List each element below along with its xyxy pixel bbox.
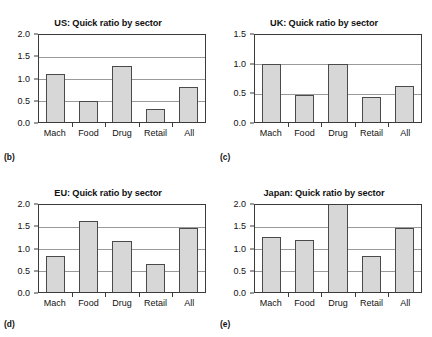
bar-slot xyxy=(39,205,72,292)
bar-slot xyxy=(72,35,105,122)
x-axis-category-label: Retail xyxy=(139,128,173,138)
x-axis-ticks-japan xyxy=(254,293,422,297)
bar-drug xyxy=(112,241,131,292)
chart-panel-us: US: Quick ratio by sector 0.00.51.01.52.… xyxy=(0,0,216,170)
x-axis-category-label: All xyxy=(172,128,206,138)
bar-drug xyxy=(328,204,347,292)
x-axis-category-label: Drug xyxy=(105,128,139,138)
y-axis-tick-label: 1.0 xyxy=(17,74,30,83)
bar-retail xyxy=(146,109,165,122)
plot-area-us xyxy=(38,34,206,123)
bar-mach xyxy=(46,74,65,123)
y-axis-tick-label: 0.0 xyxy=(233,119,246,128)
x-axis-tick-mark xyxy=(105,293,106,297)
bar-all xyxy=(395,228,414,292)
x-axis-category-label: All xyxy=(172,298,206,308)
y-axis-tick-label: 2.0 xyxy=(17,30,30,39)
y-axis-tick-label: 1.5 xyxy=(17,222,30,231)
x-axis-ticks-eu xyxy=(38,293,206,297)
bar-retail xyxy=(146,264,165,292)
bar-food xyxy=(79,101,98,122)
x-axis-category-label: Mach xyxy=(38,298,72,308)
x-axis-tick-mark xyxy=(288,123,289,127)
bar-mach xyxy=(262,237,281,292)
x-axis-tick-mark xyxy=(388,293,389,297)
y-axis-tick-label: 1.5 xyxy=(233,222,246,231)
x-axis-category-label: Retail xyxy=(355,128,389,138)
bar-retail xyxy=(362,97,381,123)
bar-slot xyxy=(139,35,172,122)
bar-mach xyxy=(262,64,281,122)
bars-uk xyxy=(255,35,421,122)
bar-all xyxy=(179,228,198,292)
y-axis-tick-label: 0.0 xyxy=(17,289,30,298)
x-axis-category-label: Food xyxy=(72,128,106,138)
panel-title: Japan: Quick ratio by sector xyxy=(216,188,432,198)
bar-all xyxy=(179,87,198,122)
x-axis-labels-eu: MachFoodDrugRetailAll xyxy=(38,298,206,308)
x-axis-category-label: Drug xyxy=(321,128,355,138)
y-axis-tick-label: 1.5 xyxy=(17,52,30,61)
y-axis-uk: 0.00.51.01.5 xyxy=(216,34,250,123)
y-axis-japan: 0.00.51.01.52.0 xyxy=(216,204,250,293)
y-axis-tick-label: 1.0 xyxy=(17,244,30,253)
bar-slot xyxy=(105,205,138,292)
bar-slot xyxy=(255,205,288,292)
panel-label: (b) xyxy=(4,152,15,162)
x-axis-category-label: Food xyxy=(72,298,106,308)
bar-all xyxy=(395,86,414,122)
plot-area-uk xyxy=(254,34,422,123)
chart-panel-japan: Japan: Quick ratio by sector 0.00.51.01.… xyxy=(216,170,432,337)
y-axis-tick-label: 1.5 xyxy=(233,30,246,39)
panel-title: EU: Quick ratio by sector xyxy=(0,188,216,198)
x-axis-category-label: Mach xyxy=(254,298,288,308)
x-axis-tick-mark xyxy=(355,293,356,297)
x-axis-labels-japan: MachFoodDrugRetailAll xyxy=(254,298,422,308)
bar-slot xyxy=(355,205,388,292)
chart-panel-eu: EU: Quick ratio by sector 0.00.51.01.52.… xyxy=(0,170,216,337)
x-axis-ticks-us xyxy=(38,123,206,127)
x-axis-tick-mark xyxy=(139,293,140,297)
bar-slot xyxy=(139,205,172,292)
x-axis-labels-uk: MachFoodDrugRetailAll xyxy=(254,128,422,138)
bar-slot xyxy=(39,35,72,122)
panel-label: (d) xyxy=(4,319,15,329)
bar-drug xyxy=(328,64,347,122)
y-axis-tick-label: 0.5 xyxy=(17,96,30,105)
y-axis-tick-label: 2.0 xyxy=(233,200,246,209)
chart-panel-uk: UK: Quick ratio by sector 0.00.51.01.5 M… xyxy=(216,0,432,170)
x-axis-category-label: All xyxy=(388,128,422,138)
y-axis-tick-label: 2.0 xyxy=(17,200,30,209)
y-axis-tick-label: 1.0 xyxy=(233,59,246,68)
x-axis-tick-mark xyxy=(172,293,173,297)
panel-title: UK: Quick ratio by sector xyxy=(216,18,432,28)
plot-frame xyxy=(254,204,422,293)
panel-title: US: Quick ratio by sector xyxy=(0,18,216,28)
x-axis-tick-mark xyxy=(388,123,389,127)
x-axis-category-label: Retail xyxy=(355,298,389,308)
x-axis-tick-mark xyxy=(139,123,140,127)
bar-slot xyxy=(288,205,321,292)
bar-drug xyxy=(112,66,131,123)
bar-slot xyxy=(255,35,288,122)
bar-slot xyxy=(105,35,138,122)
bar-mach xyxy=(46,256,65,292)
bar-slot xyxy=(321,205,354,292)
x-axis-category-label: Drug xyxy=(105,298,139,308)
x-axis-labels-us: MachFoodDrugRetailAll xyxy=(38,128,206,138)
x-axis-tick-mark xyxy=(288,293,289,297)
y-axis-tick-label: 0.0 xyxy=(17,119,30,128)
x-axis-tick-mark xyxy=(72,123,73,127)
bar-slot xyxy=(355,35,388,122)
plot-frame xyxy=(38,34,206,123)
x-axis-ticks-uk xyxy=(254,123,422,127)
x-axis-tick-mark xyxy=(321,293,322,297)
x-axis-tick-mark xyxy=(105,123,106,127)
y-axis-us: 0.00.51.01.52.0 xyxy=(0,34,34,123)
bar-food xyxy=(295,95,314,122)
bar-retail xyxy=(362,256,381,292)
x-axis-category-label: Mach xyxy=(38,128,72,138)
bar-food xyxy=(79,221,98,292)
bar-slot xyxy=(288,35,321,122)
x-axis-category-label: Retail xyxy=(139,298,173,308)
